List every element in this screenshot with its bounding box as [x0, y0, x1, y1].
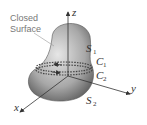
c1-sub: 1	[103, 61, 107, 69]
s2-label: S	[86, 94, 92, 106]
c2-sub: 2	[103, 75, 107, 83]
closed-label-line1: Closed	[10, 13, 38, 23]
closed-surface-diagram: Closed Surface z y x S 1 C 1 C 2 S 2	[0, 0, 147, 125]
y-label: y	[130, 82, 136, 94]
closed-label-line2: Surface	[10, 24, 41, 34]
x-label: x	[13, 101, 19, 113]
surface-leader-line	[34, 33, 54, 46]
s2-sub: 2	[93, 100, 97, 108]
z-label: z	[71, 6, 77, 18]
s1-label: S	[86, 42, 92, 54]
